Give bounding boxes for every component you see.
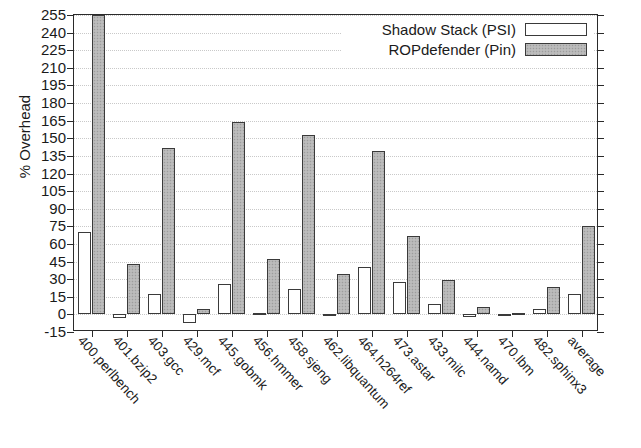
bar-pin [337, 274, 350, 314]
bar-psi [428, 304, 441, 315]
y-axis-tick-right [597, 279, 604, 280]
y-axis-tick-label: 45 [0, 253, 66, 268]
bar-pin [372, 151, 385, 314]
y-axis-tick [67, 121, 74, 122]
y-axis-tick-label: 30 [0, 271, 66, 286]
legend-item: ROPdefender (Pin) [347, 39, 587, 59]
y-axis-tick [67, 15, 74, 16]
gridline [74, 174, 597, 175]
y-axis-tick-right [597, 138, 604, 139]
y-axis-tick-label: 240 [0, 24, 66, 39]
y-axis-tick [67, 262, 74, 263]
bar-pin [477, 307, 490, 314]
gridline [74, 209, 597, 210]
y-axis-tick-right [597, 314, 604, 315]
y-axis-tick [67, 174, 74, 175]
gridline [74, 68, 597, 69]
bar-psi [358, 267, 371, 314]
bar-psi [183, 314, 196, 322]
bar-psi [78, 232, 91, 314]
x-axis-tick-label: 429.mcf [179, 333, 222, 379]
y-axis-tick-label: 195 [0, 77, 66, 92]
y-axis-tick-right [597, 103, 604, 104]
bar-psi [393, 282, 406, 315]
y-axis-tick-right [597, 85, 604, 86]
y-axis-tick-right [597, 68, 604, 69]
y-axis-tick [67, 103, 74, 104]
gridline [74, 244, 597, 245]
bar-pin [442, 280, 455, 314]
y-axis-tick-right [597, 191, 604, 192]
gridline [74, 279, 597, 280]
x-axis-tick-label: 400.perlbench [74, 333, 142, 407]
bar-pin [92, 15, 105, 314]
legend-swatch-psi [525, 23, 587, 36]
bar-psi [323, 314, 336, 316]
y-axis-tick-label: 60 [0, 235, 66, 250]
gridline [74, 121, 597, 122]
gridline [74, 138, 597, 139]
bar-psi [463, 314, 476, 316]
y-axis-tick [67, 50, 74, 51]
bar-chart-figure: % Overhead 25524022521019518016515013512… [0, 0, 641, 448]
y-axis-tick-label: 180 [0, 95, 66, 110]
legend-item: Shadow Stack (PSI) [347, 19, 587, 39]
y-axis-tick-label: 15 [0, 288, 66, 303]
y-axis-tick-label: 255 [0, 7, 66, 22]
y-axis-tick-label: 165 [0, 112, 66, 127]
bar-pin [267, 259, 280, 314]
y-axis-tick-label: 75 [0, 218, 66, 233]
y-axis-tick-right [597, 209, 604, 210]
y-axis-tick-label: 120 [0, 165, 66, 180]
bar-pin [512, 313, 525, 315]
gridline [74, 262, 597, 263]
y-axis-tick [67, 68, 74, 69]
y-axis-tick-right [597, 226, 604, 227]
gridline [74, 156, 597, 157]
y-axis-tick-right [597, 33, 604, 34]
y-axis-tick-label: 210 [0, 59, 66, 74]
y-axis-tick [67, 85, 74, 86]
y-axis-tick-label: 0 [0, 306, 66, 321]
y-axis-tick-label: 105 [0, 183, 66, 198]
y-axis-tick-right [597, 332, 604, 333]
y-axis-tick [67, 138, 74, 139]
y-axis-tick-right [597, 244, 604, 245]
gridline [74, 226, 597, 227]
y-axis-tick-right [597, 297, 604, 298]
gridline [74, 103, 597, 104]
bar-pin [232, 122, 245, 315]
bar-psi [568, 294, 581, 314]
legend-label: ROPdefender (Pin) [388, 41, 516, 58]
bar-pin [302, 135, 315, 315]
y-axis-tick-labels: 2552402252101951801651501351201059075604… [0, 14, 66, 331]
bar-pin [197, 309, 210, 315]
y-axis-tick-right [597, 262, 604, 263]
legend-swatch-pin [525, 43, 587, 56]
y-axis-tick [67, 209, 74, 210]
y-axis-tick [67, 314, 74, 315]
y-axis-tick [67, 226, 74, 227]
y-axis-tick-right [597, 174, 604, 175]
gridline [74, 85, 597, 86]
x-axis-tick-labels: 400.perlbench401.bzip2403.gcc429.mcf445.… [73, 333, 598, 448]
y-axis-tick-label: -15 [0, 324, 66, 339]
y-axis-tick-label: 90 [0, 200, 66, 215]
y-axis-tick-label: 150 [0, 130, 66, 145]
y-axis-tick [67, 244, 74, 245]
y-axis-tick-right [597, 121, 604, 122]
y-axis-tick-right [597, 156, 604, 157]
bar-psi [288, 289, 301, 315]
bar-psi [113, 314, 126, 318]
y-axis-tick [67, 33, 74, 34]
legend-label: Shadow Stack (PSI) [382, 21, 516, 38]
y-axis-tick-label: 225 [0, 42, 66, 57]
y-axis-tick-label: 135 [0, 147, 66, 162]
y-axis-tick-right [597, 50, 604, 51]
y-axis-tick-right [597, 15, 604, 16]
bar-psi [148, 294, 161, 314]
gridline [74, 191, 597, 192]
bar-psi [218, 284, 231, 315]
bar-pin [162, 148, 175, 315]
bar-pin [407, 236, 420, 315]
